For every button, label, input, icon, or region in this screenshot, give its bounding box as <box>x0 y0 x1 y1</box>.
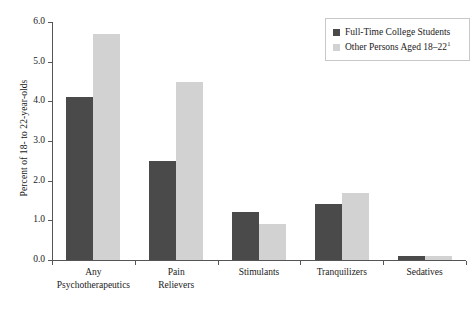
x-axis-tick-mark <box>52 261 53 265</box>
x-axis-tick-mark <box>218 261 219 265</box>
y-axis-tick: 2.0 <box>0 181 52 182</box>
bar <box>232 212 259 260</box>
legend-swatch-light <box>333 44 340 51</box>
x-axis-tick-mark <box>383 261 384 265</box>
bar <box>93 34 120 260</box>
y-axis-tick-label: 3.0 <box>33 134 45 147</box>
x-axis-line <box>52 260 466 261</box>
bar <box>342 193 369 260</box>
x-axis-tick-mark <box>300 261 301 265</box>
y-axis-tick: 6.0 <box>0 22 52 23</box>
x-axis-category-label: Sedatives <box>363 266 476 279</box>
y-axis-tick-label: 4.0 <box>33 94 45 107</box>
bar <box>259 224 286 260</box>
legend-item: Full-Time College Students <box>333 25 462 39</box>
y-axis-tick-label: 1.0 <box>33 213 45 226</box>
legend-item: Other Persons Aged 18–221 <box>333 40 462 54</box>
y-axis-tick: 4.0 <box>0 101 52 102</box>
bar <box>176 82 203 261</box>
y-axis-tick-label: 6.0 <box>33 15 45 28</box>
legend-swatch-dark <box>333 29 340 36</box>
y-axis-tick-label: 2.0 <box>33 174 45 187</box>
y-axis-tick-label: 5.0 <box>33 55 45 68</box>
legend-item-label: Full-Time College Students <box>345 26 450 38</box>
bar <box>398 256 425 260</box>
y-axis-tick: 0.0 <box>0 260 52 261</box>
bar <box>315 204 342 260</box>
bar <box>66 97 93 260</box>
bar <box>149 161 176 260</box>
bar-chart: Percent of 18- to 22-year-olds 0.01.02.0… <box>0 0 476 309</box>
y-axis-tick: 1.0 <box>0 220 52 221</box>
y-axis-tick-label: 0.0 <box>33 253 45 266</box>
y-axis-title: Percent of 18- to 22-year-olds <box>16 8 32 268</box>
y-axis-tick: 3.0 <box>0 141 52 142</box>
legend-item-label: Other Persons Aged 18–221 <box>345 41 450 53</box>
x-axis-tick-mark <box>135 261 136 265</box>
x-axis-tick-mark <box>466 261 467 265</box>
chart-legend: Full-Time College StudentsOther Persons … <box>325 18 470 61</box>
bar <box>425 256 452 260</box>
y-axis-tick: 5.0 <box>0 62 52 63</box>
